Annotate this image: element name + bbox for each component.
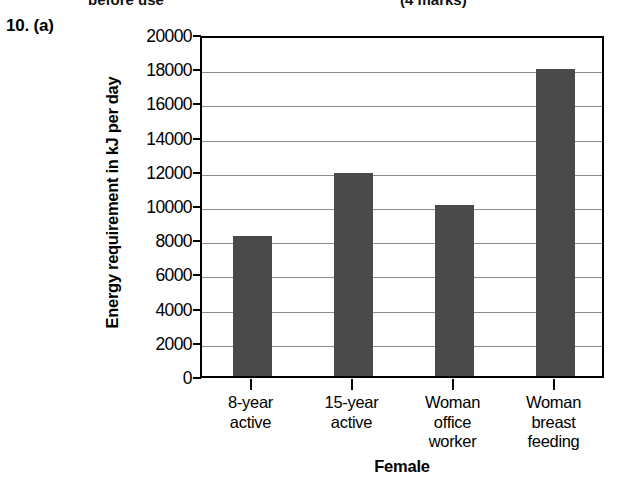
- bar: [233, 236, 272, 376]
- x-axis-tick-label: Womanbreastfeeding: [526, 393, 581, 452]
- x-axis-tick-mark: [250, 379, 253, 390]
- x-axis-tick-label: Womanofficeworker: [425, 393, 480, 452]
- bar: [334, 173, 373, 376]
- bar: [435, 205, 474, 376]
- y-axis-tick-labels: 0200040006000800010000120001400016000180…: [118, 36, 192, 378]
- y-axis-tick-label: 2000: [155, 333, 192, 354]
- x-axis-tick-labels: 8-yearactive15-yearactiveWomanofficework…: [200, 393, 604, 455]
- y-axis-tick-label: 14000: [146, 128, 192, 149]
- page-header-remnant-right: (4 marks): [400, 0, 467, 8]
- x-axis-tick-label: 8-yearactive: [228, 393, 273, 432]
- x-axis-title: Female: [200, 457, 604, 476]
- y-axis-tick-label: 18000: [146, 60, 192, 81]
- x-axis-tick-label: 15-yearactive: [325, 393, 379, 432]
- y-axis-tick-label: 10000: [146, 197, 192, 218]
- y-axis-tick-label: 4000: [155, 299, 192, 320]
- y-axis-tick-label: 0: [183, 368, 192, 389]
- x-axis-tick-mark: [553, 379, 556, 390]
- x-axis-tick-mark: [351, 379, 354, 390]
- chart-plot-area: [200, 36, 604, 378]
- question-number-label: 10. (a): [6, 16, 54, 36]
- x-axis-tick-mark: [452, 379, 455, 390]
- page-header-remnant-left: before use: [88, 0, 164, 8]
- y-axis-tick-label: 12000: [146, 162, 192, 183]
- y-axis-tick-label: 20000: [146, 26, 192, 47]
- bar-series: [202, 38, 602, 376]
- y-axis-tick-label: 16000: [146, 94, 192, 115]
- bar: [536, 69, 575, 376]
- y-axis-tick-label: 8000: [155, 231, 192, 252]
- y-axis-tick-label: 6000: [155, 265, 192, 286]
